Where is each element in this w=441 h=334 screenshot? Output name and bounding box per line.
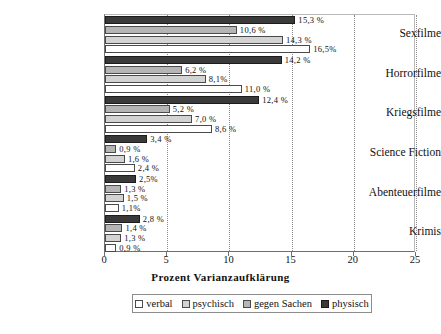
bar (105, 26, 237, 34)
bar (105, 145, 116, 153)
bar (105, 45, 310, 53)
bar (105, 194, 124, 202)
bar-value-label: 3,4 % (150, 135, 171, 143)
legend-swatch-icon (135, 300, 143, 308)
x-tick-label: 0 (89, 254, 119, 265)
bar-value-label: 1,3 % (124, 234, 145, 242)
legend-item-verbal: verbal (135, 298, 172, 309)
bar (105, 224, 122, 232)
plot-area: 15,3 %10,6 %14,3 %16,5%14,2 %6,2 %8,1%11… (104, 14, 415, 252)
legend-label: physisch (332, 298, 369, 309)
bar (105, 204, 119, 212)
bar (105, 85, 242, 93)
category-label: Krimis (341, 226, 441, 238)
legend-label: psychisch (193, 298, 234, 309)
bar (105, 175, 136, 183)
bar-value-label: 14,3 % (286, 36, 312, 44)
legend-swatch-icon (243, 300, 251, 308)
category-label: Science Fiction (341, 147, 441, 159)
category-label: Kriegsfilme (341, 107, 441, 119)
x-tick-label: 10 (213, 254, 243, 265)
bar (105, 75, 206, 83)
bar-value-label: 6,2 % (185, 66, 206, 74)
bar-value-label: 10,6 % (240, 26, 266, 34)
category-label: Sexfilme (341, 28, 441, 40)
legend-item-sachen: gegen Sachen (243, 298, 312, 309)
bar-value-label: 11,0 % (245, 85, 271, 93)
bar (105, 244, 116, 252)
bar-value-label: 1,1% (122, 204, 141, 212)
bar (105, 185, 121, 193)
bar-value-label: 7,0 % (195, 115, 216, 123)
bar-value-label: 5,2 % (173, 105, 194, 113)
bar (105, 234, 121, 242)
bar (105, 16, 295, 24)
category-label: Abenteuerfilme (341, 187, 441, 199)
bar-value-label: 15,3 % (298, 16, 324, 24)
bar (105, 155, 125, 163)
bar (105, 125, 212, 133)
legend-item-psychisch: psychisch (182, 298, 234, 309)
bar (105, 215, 140, 223)
bar-value-label: 16,5% (313, 45, 336, 53)
bar-value-label: 0,9 % (119, 244, 140, 252)
bar (105, 66, 182, 74)
bar (105, 96, 259, 104)
x-tick-label: 5 (151, 254, 181, 265)
bar (105, 56, 282, 64)
bar (105, 36, 283, 44)
legend-swatch-icon (182, 300, 190, 308)
bar-value-label: 8,6 % (215, 125, 236, 133)
bar-value-label: 1,4 % (125, 224, 146, 232)
legend-item-physisch: physisch (321, 298, 369, 309)
x-tick-label: 20 (338, 254, 368, 265)
bar-value-label: 8,1% (209, 75, 228, 83)
category-label: Horrorfilme (341, 68, 441, 80)
x-tick-label: 15 (276, 254, 306, 265)
chart-legend: verbalpsychischgegen Sachenphysisch (132, 294, 372, 313)
bar-value-label: 1,3 % (124, 185, 145, 193)
bar-value-label: 1,5 % (127, 194, 148, 202)
bar-value-label: 14,2 % (285, 56, 311, 64)
bar-value-label: 2,5% (139, 175, 158, 183)
bar (105, 105, 170, 113)
bar (105, 135, 147, 143)
variance-explained-bar-chart: 15,3 %10,6 %14,3 %16,5%14,2 %6,2 %8,1%11… (0, 0, 441, 334)
legend-label: gegen Sachen (254, 298, 312, 309)
bar-value-label: 0,9 % (119, 145, 140, 153)
bar (105, 164, 135, 172)
bar-value-label: 2,8 % (143, 215, 164, 223)
bar (105, 115, 192, 123)
gridline-25 (416, 15, 417, 251)
bar-value-label: 12,4 % (262, 96, 288, 104)
x-tick-label: 25 (400, 254, 430, 265)
legend-label: verbal (146, 298, 172, 309)
gridline-20 (354, 15, 355, 251)
bar-value-label: 2,4 % (138, 164, 159, 172)
bar-value-label: 1,6 % (128, 155, 149, 163)
legend-swatch-icon (321, 300, 329, 308)
x-axis-title: Prozent Varianzaufklärung (0, 271, 441, 283)
